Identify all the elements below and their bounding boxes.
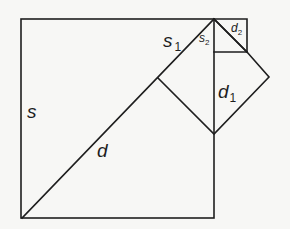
diagonal-d [22,19,214,218]
label-d1: d1 [218,81,237,105]
label-s: s [27,101,37,122]
label-d2: d2 [231,21,243,37]
label-s1: s1 [163,30,182,54]
label-s2: s2 [199,31,210,47]
label-d: d [97,140,109,161]
diagram-canvas: s d s1 d1 s2 d2 [0,0,290,229]
